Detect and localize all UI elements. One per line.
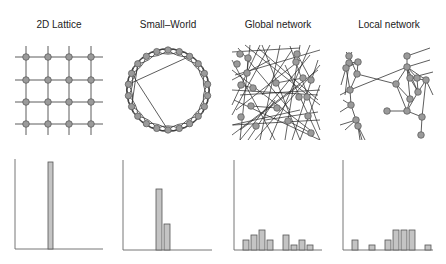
- histogram-bar: [156, 189, 162, 250]
- histogram-bar: [243, 240, 249, 250]
- lattice-network-diagram: [15, 46, 103, 135]
- histogram-bar: [369, 245, 375, 250]
- node-circle: [355, 123, 362, 130]
- histogram-bar: [164, 224, 170, 250]
- node-circle: [201, 70, 207, 76]
- node-circle: [186, 120, 192, 126]
- node-circle: [353, 117, 360, 124]
- edge-line: [132, 73, 168, 130]
- node-circle: [234, 61, 241, 68]
- node-circle: [88, 99, 95, 106]
- node-circle: [274, 105, 281, 112]
- node-circle: [300, 75, 307, 82]
- node-circle: [273, 80, 280, 87]
- histogram-bar: [393, 230, 399, 250]
- node-circle: [128, 70, 134, 76]
- histogram-bar: [283, 235, 289, 250]
- node-circle: [248, 103, 255, 110]
- global-network-diagram: [232, 45, 320, 140]
- node-circle: [404, 64, 411, 71]
- node-circle: [23, 77, 30, 84]
- node-circle: [204, 92, 210, 98]
- node-circle: [245, 55, 252, 62]
- title-global-network: Global network: [245, 19, 313, 30]
- node-circle: [419, 114, 426, 121]
- node-circle: [195, 61, 201, 67]
- histogram-bar: [385, 240, 391, 250]
- node-circle: [393, 81, 400, 88]
- figure-canvas: 2D Lattice Small–World Global network Lo…: [0, 0, 446, 264]
- node-circle: [23, 121, 30, 128]
- histogram-bar: [352, 240, 358, 250]
- histogram-bar: [409, 230, 415, 250]
- node-circle: [125, 81, 131, 87]
- node-circle: [238, 82, 245, 89]
- node-circle: [23, 54, 30, 61]
- node-circle: [204, 81, 210, 87]
- node-circle: [45, 54, 52, 61]
- node-circle: [415, 89, 422, 96]
- node-circle: [45, 77, 52, 84]
- panel-titles: 2D Lattice Small–World Global network Lo…: [36, 19, 420, 30]
- title-local-network: Local network: [358, 19, 421, 30]
- node-circle: [343, 65, 350, 72]
- node-circle: [418, 132, 425, 139]
- node-circle: [128, 103, 134, 109]
- node-circle: [195, 113, 201, 119]
- node-circle: [165, 47, 171, 53]
- node-circle: [404, 53, 411, 60]
- small-world-network-diagram: [125, 47, 211, 133]
- node-circle: [404, 108, 411, 115]
- histogram-bar: [251, 235, 257, 250]
- histogram-bar: [299, 240, 305, 250]
- node-circle: [125, 92, 131, 98]
- node-circle: [346, 53, 353, 60]
- node-circle: [384, 108, 391, 115]
- node-circle: [88, 77, 95, 84]
- node-circle: [305, 113, 312, 120]
- local-network-diagram: [340, 48, 433, 140]
- edge-line: [396, 84, 407, 111]
- axes: [343, 160, 433, 250]
- node-circle: [165, 127, 171, 133]
- node-circle: [66, 77, 73, 84]
- node-circle: [66, 54, 73, 61]
- node-circle: [293, 59, 300, 66]
- node-circle: [354, 71, 361, 78]
- histogram-global-network: [234, 160, 322, 250]
- node-circle: [45, 99, 52, 106]
- node-circle: [244, 70, 251, 77]
- edge-line: [407, 48, 430, 56]
- node-circle: [201, 103, 207, 109]
- node-circle: [285, 118, 292, 125]
- histogram-2d-lattice: [15, 159, 103, 249]
- node-circle: [186, 53, 192, 59]
- node-circle: [176, 48, 182, 54]
- histogram-bar: [48, 162, 53, 249]
- node-circle: [143, 120, 149, 126]
- histogram-bar: [401, 230, 407, 250]
- histogram-bar: [291, 245, 297, 250]
- title-small-world: Small–World: [140, 19, 197, 30]
- axes: [15, 159, 103, 249]
- node-circle: [253, 123, 260, 130]
- histogram-small-world: [123, 160, 212, 250]
- node-circle: [88, 121, 95, 128]
- node-circle: [66, 99, 73, 106]
- node-circle: [414, 75, 421, 82]
- histogram-bar: [425, 245, 431, 250]
- edge-line: [276, 78, 303, 83]
- node-circle: [407, 96, 414, 103]
- axes: [234, 160, 322, 250]
- node-circle: [154, 48, 160, 54]
- node-circle: [143, 53, 149, 59]
- node-circle: [348, 102, 355, 109]
- histogram-bar: [267, 240, 273, 250]
- histogram-local-network: [343, 160, 433, 250]
- edge-line: [251, 106, 277, 108]
- node-circle: [88, 54, 95, 61]
- node-circle: [23, 99, 30, 106]
- node-circle: [407, 75, 414, 82]
- node-circle: [347, 87, 354, 94]
- node-circle: [250, 85, 257, 92]
